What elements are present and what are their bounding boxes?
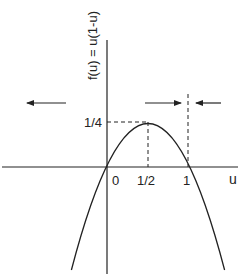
tick-label-quarter: 1/4 bbox=[84, 115, 102, 130]
y-axis-label: f(u) = u(1-u) bbox=[85, 11, 100, 80]
logistic-map-diagram: f(u) = u(1-u) u 1/4 0 1/2 1 bbox=[0, 0, 241, 275]
diagram-svg: f(u) = u(1-u) u 1/4 0 1/2 1 bbox=[0, 0, 241, 275]
tick-label-one: 1 bbox=[183, 173, 190, 188]
x-axis-label: u bbox=[229, 171, 237, 187]
tick-label-zero: 0 bbox=[112, 173, 119, 188]
tick-label-half: 1/2 bbox=[137, 173, 155, 188]
